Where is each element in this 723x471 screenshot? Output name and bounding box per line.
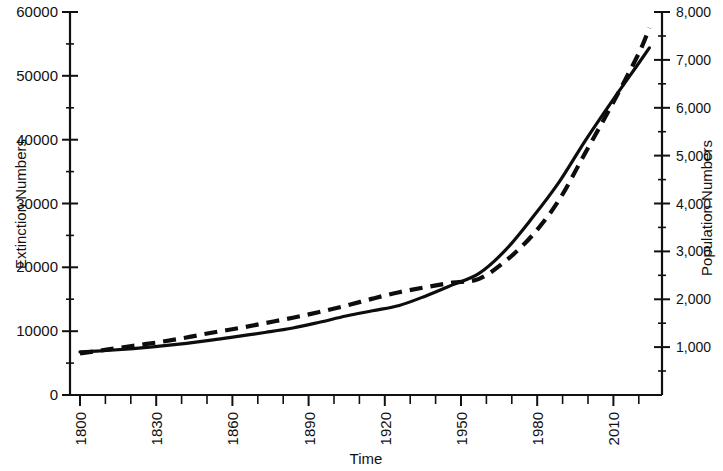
x-tick-label: 1920 (377, 412, 394, 445)
x-axis-ticks (80, 395, 639, 406)
chart-container: 0 10000 20000 30000 40000 50000 60000 (0, 0, 723, 471)
left-tick-label: 50000 (16, 67, 58, 84)
right-tick-label: 1,000 (676, 339, 711, 355)
x-tick-label: 1950 (453, 412, 470, 445)
y2-axis-title: Population Numbers (698, 140, 715, 276)
x-tick-label: 2010 (605, 412, 622, 445)
x-tick-label: 1980 (529, 412, 546, 445)
right-tick-label: 2,000 (676, 291, 711, 307)
x-axis-tick-labels: 1800 1830 1860 1890 1920 1950 1980 2010 (72, 412, 622, 445)
right-tick-label: 7,000 (676, 52, 711, 68)
line-chart: 0 10000 20000 30000 40000 50000 60000 (0, 0, 723, 471)
x-axis-title: Time (350, 450, 383, 467)
y-axis-title: Extinction Numbers (12, 139, 29, 269)
extinction-numbers-series (80, 28, 649, 354)
x-tick-label: 1830 (148, 412, 165, 445)
x-tick-label: 1860 (224, 412, 241, 445)
x-tick-label: 1800 (72, 412, 89, 445)
right-tick-label: 8,000 (676, 4, 711, 20)
left-tick-label: 60000 (16, 3, 58, 20)
left-tick-label: 10000 (16, 322, 58, 339)
x-tick-label: 1890 (301, 412, 318, 445)
population-numbers-series (80, 48, 649, 352)
left-tick-label: 0 (50, 386, 58, 403)
right-tick-label: 6,000 (676, 100, 711, 116)
